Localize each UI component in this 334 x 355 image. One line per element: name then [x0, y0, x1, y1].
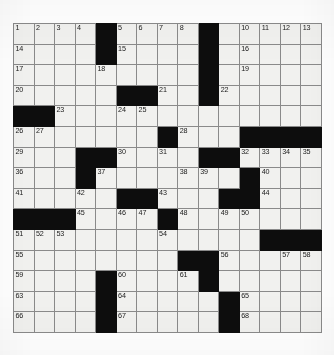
crossword-cell[interactable] — [96, 188, 117, 209]
crossword-cell[interactable] — [55, 271, 76, 292]
crossword-cell[interactable]: 52 — [34, 229, 55, 250]
crossword-cell[interactable] — [260, 85, 281, 106]
crossword-cell[interactable]: 27 — [34, 126, 55, 147]
crossword-cell[interactable] — [55, 168, 76, 189]
crossword-cell[interactable] — [260, 312, 281, 333]
crossword-cell[interactable] — [178, 229, 199, 250]
crossword-cell[interactable] — [34, 44, 55, 65]
crossword-cell[interactable]: 26 — [14, 126, 35, 147]
crossword-cell[interactable] — [260, 291, 281, 312]
crossword-cell[interactable]: 12 — [280, 24, 301, 45]
crossword-cell[interactable]: 10 — [239, 24, 260, 45]
crossword-cell[interactable] — [178, 188, 199, 209]
crossword-cell[interactable] — [280, 291, 301, 312]
crossword-cell[interactable]: 14 — [14, 44, 35, 65]
crossword-cell[interactable] — [75, 44, 96, 65]
crossword-cell[interactable] — [198, 106, 219, 127]
crossword-cell[interactable] — [219, 229, 240, 250]
crossword-cell[interactable]: 50 — [239, 209, 260, 230]
crossword-cell[interactable] — [34, 271, 55, 292]
crossword-cell[interactable] — [137, 44, 158, 65]
crossword-cell[interactable]: 55 — [14, 250, 35, 271]
crossword-cell[interactable] — [178, 44, 199, 65]
crossword-cell[interactable] — [116, 168, 137, 189]
crossword-cell[interactable] — [137, 65, 158, 86]
crossword-cell[interactable] — [55, 250, 76, 271]
crossword-cell[interactable] — [219, 271, 240, 292]
crossword-cell[interactable] — [198, 229, 219, 250]
crossword-cell[interactable] — [301, 65, 322, 86]
crossword-cell[interactable] — [157, 168, 178, 189]
crossword-cell[interactable] — [75, 85, 96, 106]
crossword-cell[interactable] — [260, 65, 281, 86]
crossword-cell[interactable] — [34, 312, 55, 333]
crossword-cell[interactable]: 33 — [260, 147, 281, 168]
crossword-cell[interactable]: 15 — [116, 44, 137, 65]
crossword-cell[interactable] — [178, 312, 199, 333]
crossword-cell[interactable]: 11 — [260, 24, 281, 45]
crossword-cell[interactable]: 37 — [96, 168, 117, 189]
crossword-cell[interactable]: 68 — [239, 312, 260, 333]
crossword-cell[interactable] — [75, 312, 96, 333]
crossword-cell[interactable] — [280, 65, 301, 86]
crossword-cell[interactable]: 36 — [14, 168, 35, 189]
crossword-cell[interactable] — [75, 229, 96, 250]
crossword-cell[interactable] — [34, 250, 55, 271]
crossword-cell[interactable] — [260, 106, 281, 127]
crossword-cell[interactable] — [239, 85, 260, 106]
crossword-cell[interactable] — [55, 44, 76, 65]
crossword-cell[interactable]: 5 — [116, 24, 137, 45]
crossword-cell[interactable] — [96, 209, 117, 230]
crossword-cell[interactable] — [75, 65, 96, 86]
crossword-cell[interactable] — [198, 312, 219, 333]
crossword-cell[interactable] — [301, 271, 322, 292]
crossword-cell[interactable] — [178, 106, 199, 127]
crossword-cell[interactable] — [301, 44, 322, 65]
crossword-cell[interactable] — [34, 291, 55, 312]
crossword-cell[interactable] — [239, 250, 260, 271]
crossword-cell[interactable]: 8 — [178, 24, 199, 45]
crossword-cell[interactable] — [55, 65, 76, 86]
crossword-cell[interactable] — [75, 126, 96, 147]
crossword-cell[interactable] — [137, 147, 158, 168]
crossword-cell[interactable]: 35 — [301, 147, 322, 168]
crossword-cell[interactable]: 7 — [157, 24, 178, 45]
crossword-cell[interactable] — [219, 168, 240, 189]
crossword-cell[interactable] — [116, 229, 137, 250]
crossword-cell[interactable] — [280, 271, 301, 292]
crossword-cell[interactable] — [178, 65, 199, 86]
crossword-cell[interactable] — [198, 188, 219, 209]
crossword-cell[interactable] — [96, 106, 117, 127]
crossword-cell[interactable] — [137, 291, 158, 312]
crossword-cell[interactable]: 30 — [116, 147, 137, 168]
crossword-cell[interactable] — [137, 271, 158, 292]
crossword-cell[interactable] — [280, 188, 301, 209]
crossword-cell[interactable] — [219, 44, 240, 65]
crossword-cell[interactable] — [219, 126, 240, 147]
crossword-cell[interactable] — [137, 229, 158, 250]
crossword-cell[interactable] — [55, 126, 76, 147]
crossword-cell[interactable] — [34, 168, 55, 189]
crossword-cell[interactable]: 39 — [198, 168, 219, 189]
crossword-cell[interactable] — [137, 312, 158, 333]
crossword-cell[interactable] — [34, 65, 55, 86]
crossword-cell[interactable] — [301, 209, 322, 230]
crossword-cell[interactable]: 16 — [239, 44, 260, 65]
crossword-cell[interactable] — [178, 147, 199, 168]
crossword-cell[interactable] — [96, 85, 117, 106]
crossword-cell[interactable]: 61 — [178, 271, 199, 292]
crossword-cell[interactable]: 51 — [14, 229, 35, 250]
crossword-cell[interactable] — [301, 291, 322, 312]
crossword-cell[interactable] — [55, 188, 76, 209]
crossword-cell[interactable] — [137, 126, 158, 147]
crossword-cell[interactable]: 28 — [178, 126, 199, 147]
crossword-cell[interactable] — [137, 168, 158, 189]
crossword-cell[interactable]: 31 — [157, 147, 178, 168]
crossword-cell[interactable] — [75, 271, 96, 292]
crossword-cell[interactable]: 58 — [301, 250, 322, 271]
crossword-cell[interactable] — [198, 291, 219, 312]
crossword-cell[interactable] — [280, 168, 301, 189]
crossword-cell[interactable] — [280, 106, 301, 127]
crossword-cell[interactable] — [157, 106, 178, 127]
crossword-cell[interactable] — [116, 126, 137, 147]
